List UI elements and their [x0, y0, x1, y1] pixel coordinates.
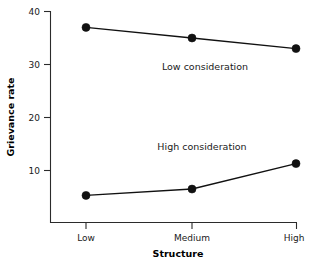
chart-figure: 40 30 20 10 Low Medium High Structure Gr…: [0, 0, 312, 268]
annotation-high-consideration: High consideration: [157, 141, 246, 152]
data-point-low-consideration-high: [292, 45, 300, 53]
data-point-high-consideration-low: [82, 191, 90, 199]
x-tick-label-high: High: [284, 233, 305, 243]
data-point-low-consideration-medium: [188, 34, 196, 42]
data-point-high-consideration-high: [292, 160, 300, 168]
plot-background: [0, 0, 312, 268]
data-point-low-consideration-low: [82, 23, 90, 31]
data-point-high-consideration-medium: [188, 185, 196, 193]
x-tick-label-medium: Medium: [174, 233, 210, 243]
y-tick-label-20: 20: [29, 113, 41, 123]
y-axis-title: Grievance rate: [5, 77, 16, 156]
annotation-low-consideration: Low consideration: [162, 61, 248, 72]
x-tick-label-low: Low: [77, 233, 95, 243]
y-tick-label-30: 30: [29, 60, 41, 70]
y-tick-label-40: 40: [29, 7, 41, 17]
line-chart-plot: 40 30 20 10 Low Medium High Structure Gr…: [0, 0, 312, 268]
x-axis-title: Structure: [153, 248, 204, 259]
y-tick-label-10: 10: [29, 166, 41, 176]
